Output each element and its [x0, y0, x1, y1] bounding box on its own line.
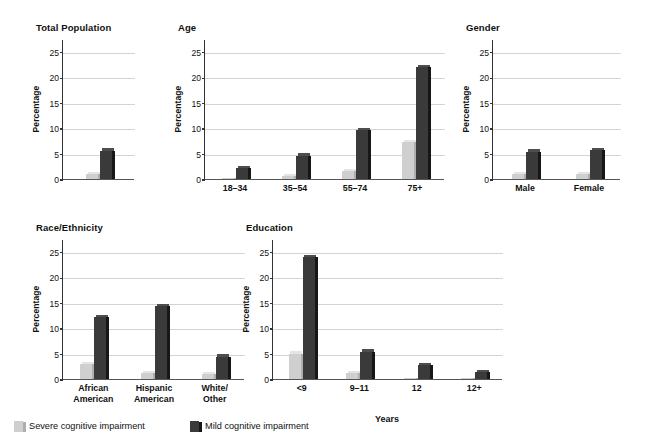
bar-top [88, 172, 100, 174]
bar-top [304, 255, 316, 257]
y-tick-label: 25 [259, 248, 269, 257]
bar-side [602, 150, 605, 179]
y-tick-mark [490, 154, 493, 155]
bar-top [358, 128, 370, 130]
y-tick-mark [60, 52, 63, 53]
bar-top [157, 304, 169, 306]
bar-face [100, 151, 112, 180]
y-axis-label: Percentage [31, 279, 41, 339]
bar-top [578, 172, 590, 174]
bar-side [430, 365, 433, 379]
y-tick-label: 10 [259, 325, 269, 334]
x-category-label: Female [557, 183, 621, 194]
y-tick-label: 15 [191, 99, 201, 108]
plot-area: 0510152025<99–111212+ [272, 240, 502, 380]
y-tick-mark [202, 52, 205, 53]
bar-face [289, 354, 301, 379]
y-tick-mark [490, 78, 493, 79]
bar-top [404, 140, 416, 142]
y-tick-label: 10 [479, 125, 489, 134]
y-tick-mark [60, 179, 63, 180]
bar-severe [346, 373, 358, 379]
y-tick-mark [202, 128, 205, 129]
bar-side [487, 372, 490, 379]
bar-top [348, 371, 360, 373]
y-tick-mark [490, 103, 493, 104]
bar-mild [216, 357, 228, 379]
bar-side [368, 130, 371, 179]
legend-label: Mild cognitive impairment [205, 421, 309, 431]
x-category-label: 18–34 [205, 183, 265, 194]
bar-face [512, 174, 524, 179]
y-tick-label: 0 [264, 376, 269, 385]
bar-top [238, 166, 250, 168]
y-tick-label: 5 [196, 150, 201, 159]
panel-title: Total Population [36, 22, 111, 33]
bar-face [346, 373, 358, 379]
bar-side [228, 357, 231, 379]
y-tick-mark [60, 78, 63, 79]
bar-face [360, 352, 372, 379]
y-tick-mark [270, 303, 273, 304]
x-category-label: <9 [273, 383, 331, 394]
bar-face [94, 317, 106, 379]
x-category-label: White/ Other [184, 383, 245, 404]
bar-top [418, 65, 430, 67]
x-category-label: 12+ [446, 383, 504, 394]
bar-mild [100, 151, 112, 180]
gridline [205, 53, 445, 54]
y-tick-label: 5 [54, 350, 59, 359]
gridline [493, 129, 621, 130]
gridline [493, 78, 621, 79]
y-tick-label: 20 [479, 74, 489, 83]
panel-title: Gender [466, 22, 500, 33]
gridline [63, 278, 245, 279]
bar-mild [296, 156, 308, 179]
bar-mild [236, 168, 248, 179]
bar-severe [86, 174, 98, 179]
bar-face [475, 372, 487, 379]
bar-top [477, 370, 489, 372]
chart-panel-1: Total PopulationPercentage0510152025 [36, 22, 144, 232]
bar-mild [418, 365, 430, 379]
legend-label: Severe cognitive impairment [29, 421, 145, 431]
bar-face [356, 130, 368, 179]
swatch-face [190, 421, 199, 432]
panel-title: Race/Ethnicity [36, 222, 103, 233]
y-axis-label: Percentage [173, 79, 183, 139]
bar-face [342, 171, 354, 179]
y-tick-label: 10 [191, 125, 201, 134]
bar-severe [342, 171, 354, 179]
bar-face [402, 142, 414, 179]
swatch-side [199, 422, 202, 432]
x-category-label: African American [63, 383, 124, 404]
y-tick-mark [270, 379, 273, 380]
plot-area: 0510152025MaleFemale [492, 40, 620, 180]
y-tick-label: 5 [484, 150, 489, 159]
y-tick-label: 5 [54, 150, 59, 159]
bar-face [236, 168, 248, 179]
y-tick-mark [490, 179, 493, 180]
y-tick-mark [60, 303, 63, 304]
gridline [493, 53, 621, 54]
bar-side [428, 67, 431, 179]
gridline [63, 304, 245, 305]
bar-face [461, 378, 473, 379]
bar-mild [416, 67, 428, 179]
y-axis-label: Percentage [461, 79, 471, 139]
y-tick-mark [60, 103, 63, 104]
x-category-label: Male [493, 183, 557, 194]
y-tick-mark [270, 354, 273, 355]
y-tick-mark [490, 128, 493, 129]
bar-severe [289, 354, 301, 379]
y-tick-mark [60, 354, 63, 355]
bar-severe [222, 178, 234, 179]
y-tick-label: 15 [479, 99, 489, 108]
bar-side [315, 257, 318, 379]
chart-panel-4: Race/EthnicityPercentage0510152025Africa… [36, 222, 254, 432]
bar-mild [526, 152, 538, 179]
x-category-label: 9–11 [331, 383, 389, 394]
bar-top [82, 362, 94, 364]
bar-top [96, 315, 108, 317]
y-tick-label: 5 [264, 350, 269, 359]
